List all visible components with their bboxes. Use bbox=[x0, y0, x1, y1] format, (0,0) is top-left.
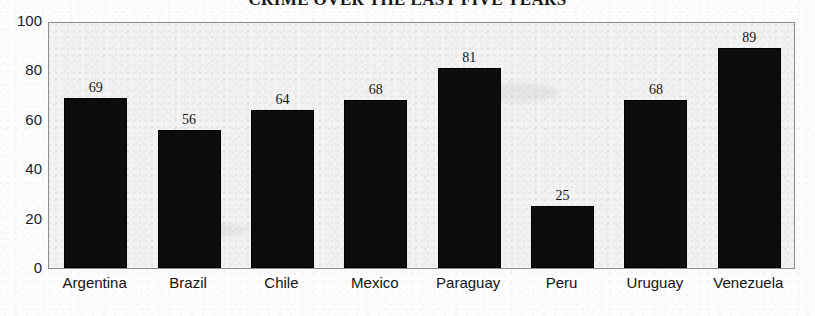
x-tick-label: Paraguay bbox=[422, 274, 515, 291]
x-tick-label: Brazil bbox=[141, 274, 234, 291]
x-tick-label: Venezuela bbox=[702, 274, 795, 291]
x-tick-label: Uruguay bbox=[608, 274, 701, 291]
x-tick-label: Mexico bbox=[328, 274, 421, 291]
x-tick-label: Chile bbox=[235, 274, 328, 291]
x-tick-label: Argentina bbox=[48, 274, 141, 291]
chart-figure: CRIME OVER THE LAST FIVE YEARS 020406080… bbox=[0, 0, 815, 316]
x-axis: ArgentinaBrazilChileMexicoParaguayPeruUr… bbox=[0, 0, 815, 316]
x-tick-label: Peru bbox=[515, 274, 608, 291]
